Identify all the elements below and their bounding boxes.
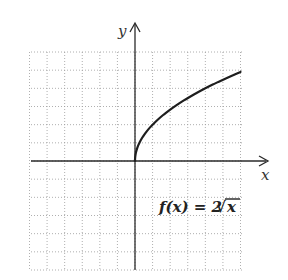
y-axis-label: y [117, 22, 127, 40]
function-label-lhs: f(x) = 2 [158, 198, 222, 216]
x-axis-label: x [261, 166, 270, 184]
function-graph: y x f(x) = 2 √ x [0, 0, 288, 280]
function-label: f(x) = 2 [158, 198, 222, 216]
function-label-radicand: x [226, 198, 237, 216]
radical-sign-icon: √ [216, 198, 226, 216]
